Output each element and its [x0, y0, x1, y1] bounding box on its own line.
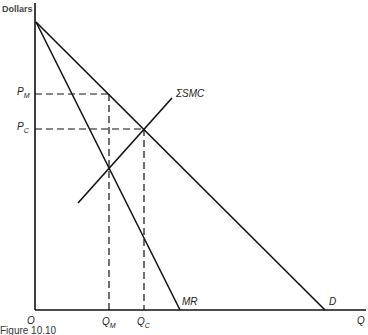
qm-label: QM — [102, 316, 116, 329]
demand-curve — [36, 22, 325, 310]
mr-curve — [36, 22, 180, 310]
pm-label: PM — [17, 86, 30, 99]
figure: Dollars PM PC ΣSMC MR D Q O QM QC Figure… — [0, 0, 368, 335]
diagram-canvas — [0, 0, 368, 335]
smc-label: ΣSMC — [176, 88, 204, 99]
qc-label: QC — [137, 316, 150, 329]
smc-curve — [78, 98, 172, 203]
d-label: D — [329, 296, 336, 307]
y-axis-label: Dollars — [2, 4, 33, 14]
mr-label: MR — [182, 296, 198, 307]
pc-label: PC — [17, 121, 29, 134]
x-axis-label: Q — [357, 315, 365, 326]
figure-caption: Figure 10.10 — [0, 325, 56, 335]
